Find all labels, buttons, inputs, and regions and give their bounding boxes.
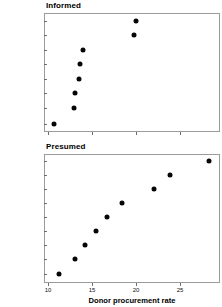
data-point [105,215,110,220]
x-tick-mark [48,283,49,286]
y-tick-mark [44,124,47,125]
x-tick-mark [136,283,137,286]
data-point [72,106,77,111]
donor-procurement-rate-figure: Informed United States Ireland Canada Ne… [0,0,222,307]
y-tick-mark [44,64,47,65]
y-tick-mark [44,259,47,260]
x-axis-title: Donor procurement rate [89,296,176,305]
x-tick-mark [180,283,181,286]
y-tick-mark [44,50,47,51]
data-point [94,229,99,234]
data-point [134,19,139,24]
panel-title-informed: Informed [46,1,81,10]
x-tick-label-25: 25 [177,287,184,293]
data-point [78,62,83,67]
panel-informed: Informed United States Ireland Canada Ne… [0,0,222,148]
x-tick-mark [48,132,49,135]
x-tick-label-20: 20 [133,287,140,293]
x-tick-label-10: 10 [45,287,52,293]
data-point [207,159,212,164]
plot-area-presumed [44,154,220,283]
y-tick-mark [44,203,47,204]
x-tick-label-15: 15 [89,287,96,293]
y-tick-mark [44,245,47,246]
data-point [57,272,62,277]
panel-title-presumed: Presumed [46,142,85,151]
y-tick-mark [44,35,47,36]
data-point [77,77,82,82]
x-tick-mark [92,132,93,135]
data-point [83,243,88,248]
data-point [120,201,125,206]
data-point [81,48,86,53]
y-tick-mark [44,93,47,94]
data-point [132,33,137,38]
x-tick-mark [92,283,93,286]
y-tick-mark [44,231,47,232]
data-point [73,257,78,262]
y-tick-mark [44,189,47,190]
y-tick-mark [44,161,47,162]
y-tick-mark [44,21,47,22]
y-tick-mark [44,175,47,176]
plot-area-informed [44,13,220,132]
x-tick-mark [136,132,137,135]
x-tick-mark [180,132,181,135]
data-point [73,91,78,96]
data-point [52,122,57,127]
y-tick-mark [44,217,47,218]
data-point [152,187,157,192]
panel-presumed: Presumed Spain Austria Belgium Finland F… [0,141,222,307]
data-point [168,173,173,178]
y-tick-mark [44,79,47,80]
y-tick-mark [44,274,47,275]
y-tick-mark [44,108,47,109]
